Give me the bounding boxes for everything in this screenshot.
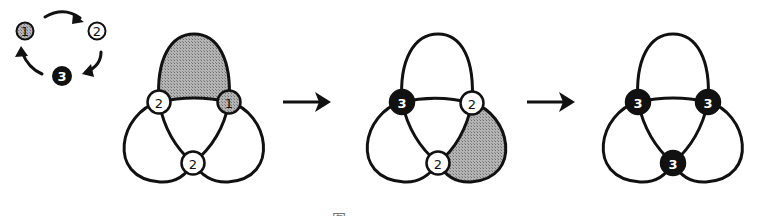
node-right-label: 1 — [225, 96, 233, 111]
node-left-label: 3 — [633, 96, 642, 111]
legend-node-3: 3 — [53, 67, 71, 85]
cycle-arrow-head-3-to-1 — [15, 46, 28, 57]
figure-caption: 图 x — [332, 208, 422, 216]
diagram-step-3: 3 3 3 — [603, 34, 742, 182]
figure-canvas: 1 2 3 2 1 2 — [0, 0, 758, 216]
node-left: 3 — [626, 90, 650, 114]
legend-node-3-label: 3 — [57, 69, 66, 84]
legend-node-1: 1 — [17, 23, 34, 40]
node-bottom: 3 — [661, 151, 685, 175]
node-left-label: 2 — [155, 96, 163, 111]
node-bottom: 2 — [427, 152, 450, 175]
shaded-top-lobe — [159, 34, 230, 102]
state-cycle-legend: 1 2 3 — [15, 12, 106, 85]
cycle-arrow-head-2-to-3 — [82, 64, 94, 77]
node-bottom-label: 2 — [189, 157, 197, 172]
node-bottom-label: 3 — [668, 157, 677, 172]
node-left-label: 3 — [397, 96, 406, 111]
transition-arrow-1 — [283, 92, 331, 112]
node-bottom-label: 2 — [434, 157, 442, 172]
node-left: 2 — [148, 91, 171, 114]
diagram-step-1: 2 1 2 — [124, 34, 263, 182]
legend-node-2: 2 — [89, 23, 106, 40]
top-lobe — [402, 34, 473, 103]
node-right: 1 — [218, 91, 241, 114]
diagram-step-2: 3 2 2 — [367, 34, 506, 182]
node-right-label: 2 — [468, 97, 476, 112]
node-right-label: 3 — [703, 96, 712, 111]
legend-node-2-label: 2 — [93, 24, 101, 39]
node-left: 3 — [390, 90, 414, 114]
node-right: 3 — [696, 90, 720, 114]
transition-arrow-2 — [527, 92, 575, 112]
legend-node-1-label: 1 — [21, 24, 29, 39]
node-right: 2 — [461, 92, 484, 115]
node-bottom: 2 — [182, 152, 205, 175]
top-lobe — [638, 34, 709, 102]
